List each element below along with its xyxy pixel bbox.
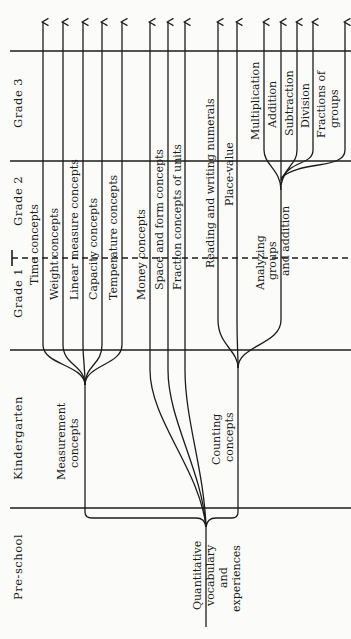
label-groups: groups [266, 241, 279, 280]
label-counting: Counting [210, 414, 223, 465]
label-subtraction: Subtraction [283, 70, 296, 136]
label-multiplication: Multiplication [249, 62, 262, 140]
label-and: and [217, 567, 230, 588]
label-fractions-of: Fractions of [315, 70, 328, 138]
label-quantitative: Quantitative [191, 541, 204, 610]
grade-label-preschool: Pre-school [11, 534, 25, 600]
label-space-form: Space and form concepts [153, 149, 166, 290]
label-division: Division [299, 83, 312, 128]
label-vocabulary: vocabulary [204, 544, 217, 607]
grade-label-grade2: Grade 2 [11, 176, 25, 226]
label-and-addition: and addition [279, 206, 292, 276]
label-money: Money concepts [135, 209, 148, 300]
label-measurement-concepts: concepts [68, 418, 81, 468]
label-experiences: experiences [230, 545, 243, 612]
label-place-value: Place-value [223, 142, 236, 206]
grade-label-grade3: Grade 3 [11, 78, 25, 128]
label-capacity: Capacity concepts [87, 198, 100, 300]
label-measurement: Measurement [55, 402, 68, 480]
grade-labels: Pre-school Kindergarten Grade 1 Grade 2 … [11, 78, 25, 600]
label-time: Time concepts [28, 204, 41, 285]
concept-development-diagram: Pre-school Kindergarten Grade 1 Grade 2 … [0, 0, 351, 639]
label-linear: Linear measure concepts [68, 159, 81, 300]
grade-label-grade1: Grade 1 [11, 268, 25, 318]
label-temperature: Temperature concepts [107, 174, 120, 300]
label-addition: Addition [266, 81, 279, 129]
label-reading-writing: Reading and writing numerals [204, 98, 217, 268]
label-weight: Weight concepts [48, 208, 61, 300]
label-counting-concepts: concepts [223, 412, 236, 462]
grade-label-kindergarten: Kindergarten [11, 396, 25, 480]
label-fraction-units: Fraction concepts of units [171, 144, 184, 290]
label-fractions-groups: groups [328, 89, 341, 128]
